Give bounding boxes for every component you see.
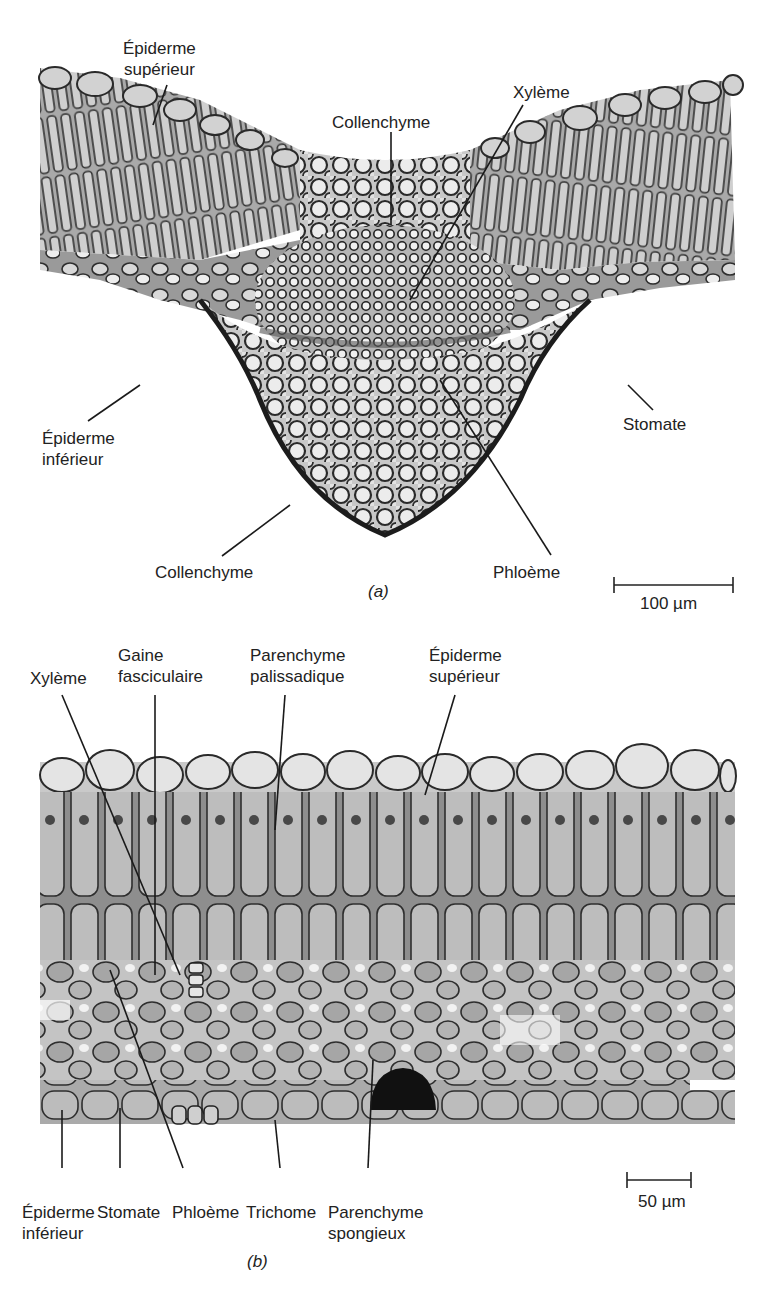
scale-label-a: 100 µm [640,594,697,614]
leader-b-phloeme [110,970,183,1168]
label-a-xyleme: Xylème [513,82,570,103]
label-b-phloeme: Phloème [172,1202,239,1223]
leader-a-xyleme [410,105,523,300]
scale-bar-a [614,577,733,593]
leader-a-collenchyme-bottom [222,505,290,556]
label-b-trichome: Trichome [246,1202,316,1223]
leader-b-xyleme [62,695,180,975]
panel-a-tag: (a) [368,582,389,602]
label-a-epiderme-superieur: Épiderme supérieur [123,38,196,80]
leader-b-spongieux [368,1060,373,1168]
label-b-epiderme-superieur: Épiderme supérieur [429,645,502,687]
label-a-phloeme: Phloème [493,562,560,583]
leader-a-epiderme-superieur [153,85,167,125]
leader-a-epiderme-inferieur [88,385,140,421]
scale-bar-b [627,1172,691,1188]
leader-b-trichome [275,1120,280,1168]
label-b-epiderme-inferieur: Épiderme inférieur [22,1202,95,1244]
scale-label-b: 50 µm [638,1192,686,1212]
label-b-stomate: Stomate [97,1202,160,1223]
label-a-collenchyme-bottom: Collenchyme [155,562,253,583]
leader-b-epiderme-superieur [425,695,455,795]
leader-a-phloeme [440,380,551,555]
label-a-epiderme-inferieur: Épiderme inférieur [42,428,115,470]
leaf-cross-section-figure: Épiderme supérieur Collenchyme Xylème Ép… [0,0,774,1298]
label-a-stomate: Stomate [623,414,686,435]
label-b-gaine-fasciculaire: Gaine fasciculaire [118,645,203,687]
label-b-parenchyme-spongieux: Parenchyme spongieux [328,1202,423,1244]
label-a-collenchyme-top: Collenchyme [332,112,430,133]
panel-b-tag: (b) [247,1252,268,1272]
label-b-parenchyme-palissadique: Parenchyme palissadique [250,645,345,687]
leader-lines [0,0,774,1298]
leader-a-stomate [628,385,653,410]
label-b-xyleme: Xylème [30,668,87,689]
leader-b-palissadique [275,695,285,830]
